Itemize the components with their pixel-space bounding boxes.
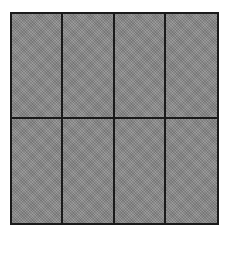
- shaded-cell: [63, 119, 114, 224]
- shaded-cell: [115, 119, 166, 224]
- shaded-cell: [115, 14, 166, 119]
- shaded-cell: [63, 14, 114, 119]
- shaded-cell: [12, 119, 63, 224]
- shaded-cell: [166, 14, 217, 119]
- fraction-square-diagram: [10, 12, 219, 225]
- shaded-cell: [166, 119, 217, 224]
- shaded-cell: [12, 14, 63, 119]
